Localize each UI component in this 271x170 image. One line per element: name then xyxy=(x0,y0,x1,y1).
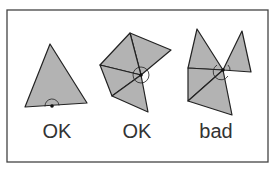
panel-ok-fan: OK xyxy=(100,33,171,142)
panel-bad-nonmanifold: bad xyxy=(188,29,251,142)
vertex-dot xyxy=(221,68,225,72)
label-ok-2: OK xyxy=(123,120,153,142)
triangle xyxy=(188,29,223,70)
vertex-dot xyxy=(50,104,54,108)
triangle xyxy=(223,31,251,72)
label-ok-1: OK xyxy=(43,120,73,142)
manifold-vertex-diagram: OK OK bad xyxy=(0,0,271,170)
triangle xyxy=(25,44,87,107)
vertex-dot xyxy=(139,73,143,77)
panel-ok-single-triangle: OK xyxy=(25,44,87,142)
label-bad: bad xyxy=(199,120,232,142)
